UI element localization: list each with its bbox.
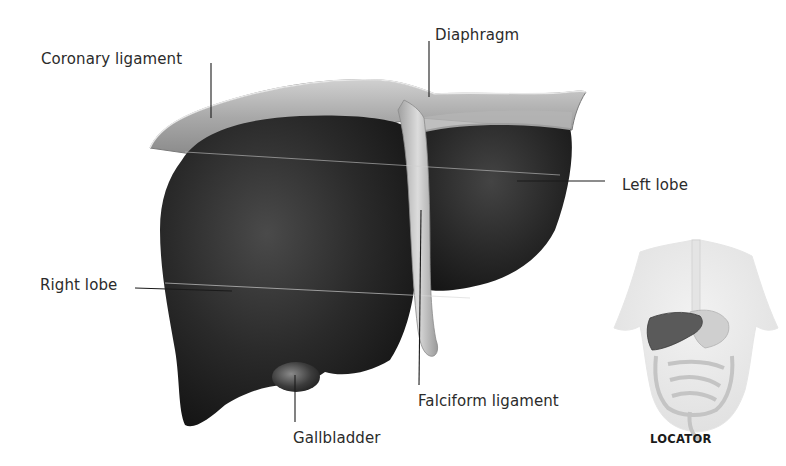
label-left-lobe: Left lobe <box>622 176 688 194</box>
left-lobe-shape <box>425 123 572 291</box>
liver-anatomy-diagram: Coronary ligament Diaphragm Left lobe Ri… <box>0 0 786 466</box>
liver-illustration <box>0 0 786 466</box>
locator-figure <box>614 240 778 440</box>
locator-label: LOCATOR <box>650 432 712 446</box>
label-falciform-ligament: Falciform ligament <box>418 392 559 410</box>
gallbladder-shape <box>272 362 320 392</box>
label-diaphragm: Diaphragm <box>435 26 519 44</box>
label-coronary-ligament: Coronary ligament <box>41 50 182 68</box>
label-gallbladder: Gallbladder <box>293 429 381 447</box>
label-right-lobe: Right lobe <box>40 276 117 294</box>
